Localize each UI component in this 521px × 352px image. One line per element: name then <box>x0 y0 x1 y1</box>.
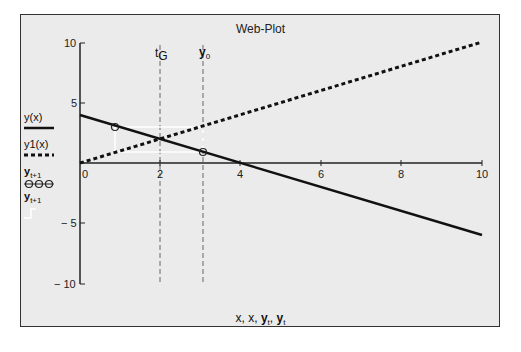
series-y1 <box>80 42 482 163</box>
tg-label: tG <box>155 46 168 63</box>
x-tick: 0 <box>82 168 88 180</box>
y-tick: 5 <box>71 97 77 109</box>
legend-circle-sample <box>24 181 54 188</box>
y-tick: 10 <box>64 37 76 49</box>
legend-y1: y1(x) <box>24 138 48 150</box>
legend-yt1-step: yt+1 <box>24 190 41 205</box>
legend-step-sample <box>24 209 36 218</box>
plot-area <box>0 0 521 352</box>
y-tick: − 5 <box>61 217 77 229</box>
legend-y: y(x) <box>24 111 42 123</box>
x-tick: 2 <box>157 168 163 180</box>
x-tick: 4 <box>237 168 243 180</box>
x-tick: 8 <box>398 168 404 180</box>
y-tick: − 10 <box>54 278 76 290</box>
x-axis-label: x, x, yt, yt <box>0 311 521 327</box>
series-y <box>80 115 482 235</box>
x-tick: 6 <box>318 168 324 180</box>
chart-title: Web-Plot <box>0 22 521 36</box>
legend-yt1-markers: yt+1 <box>24 165 41 180</box>
y0-label: y0 <box>199 45 210 61</box>
x-tick: 10 <box>476 168 488 180</box>
